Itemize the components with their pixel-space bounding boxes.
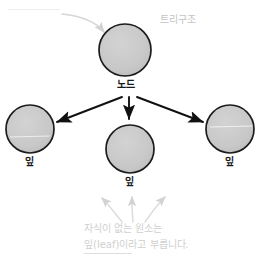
node-leaf-left — [6, 105, 54, 153]
caption-term-underline — [84, 253, 132, 254]
node-root — [99, 24, 151, 76]
tree-diagram-figure: 트리구조 노드 잎 잎 잎 자식이 없는 원소는 잎(leaf)이라고 부릅니다… — [0, 0, 258, 259]
node-label-leaf-right: 잎 — [225, 157, 234, 167]
caption-line-1: 자식이 없는 원소는 — [84, 224, 162, 234]
node-label-leaf-left: 잎 — [25, 157, 34, 167]
tree-diagram-canvas — [0, 0, 258, 259]
node-leaf-middle — [106, 125, 154, 173]
caption-arrow-right — [145, 197, 165, 222]
edge-root-to-leaf-right — [137, 97, 203, 122]
node-leaf-right — [206, 105, 254, 153]
caption-line-2: 잎(leaf)이라고 부릅니다. — [84, 240, 189, 250]
caption-arrow-left — [102, 198, 122, 222]
node-label-leaf-middle: 잎 — [125, 177, 134, 187]
node-label-root: 노드 — [117, 80, 135, 90]
pointer-arrow-to-root — [62, 14, 104, 32]
caption-arrow-middle — [132, 197, 133, 222]
edge-root-to-leaf-left — [57, 97, 122, 122]
figure-title-annotation: 트리구조 — [160, 15, 196, 25]
